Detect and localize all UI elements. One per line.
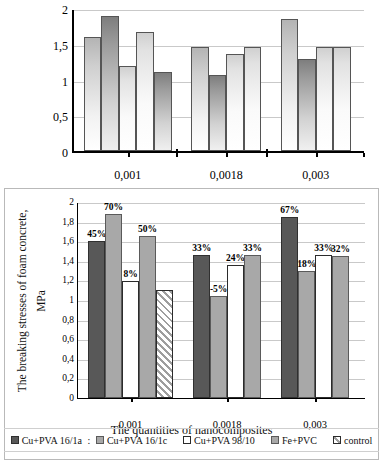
x-axis-tick-mark: [128, 153, 130, 157]
group-separator-tick: [176, 149, 178, 157]
bottom-chart-bar: [88, 241, 105, 398]
y-axis-tick-label: 2: [69, 198, 74, 208]
legend-item-cu-pva-16-1a[interactable]: Cu+PVA 16/1a: [11, 435, 82, 446]
bottom-chart-bar: [139, 236, 156, 398]
legend-label: Cu+PVA 98/10: [194, 435, 255, 446]
group-separator-tick: [266, 149, 268, 157]
x-axis-tick-mark: [315, 399, 317, 402]
top-chart-bar: [209, 75, 227, 151]
bottom-chart-bar: [227, 265, 244, 398]
bar-percentage-label: 45%: [87, 230, 106, 240]
y-axis-tick-label: 1,6: [62, 237, 74, 247]
y-axis-tick-label: 0,6: [62, 335, 74, 345]
top-chart-bar: [84, 37, 102, 151]
legend-separator: :: [82, 435, 96, 446]
bar-percentage-label: 70%: [104, 203, 123, 213]
top-bar-chart: 00,511,520,0010,00180,003: [0, 0, 383, 178]
bottom-chart-bar: [210, 296, 227, 398]
top-chart-bar: [136, 32, 154, 151]
top-chart-bar: [119, 66, 137, 151]
legend-label: Cu+PVA 16/1c: [107, 435, 167, 446]
top-plot-area: 00,511,520,0010,00180,003: [72, 10, 364, 153]
y-axis-title-line1: The breaking stresses of foam concrete,: [11, 203, 33, 399]
bar-percentage-label: 33%: [243, 244, 262, 254]
top-chart-bar: [101, 16, 119, 151]
legend-swatch-icon: [333, 436, 341, 444]
legend-item-control[interactable]: control: [333, 435, 372, 446]
y-axis-tick-label: 1: [69, 296, 74, 306]
bar-percentage-label: 18%: [297, 260, 316, 270]
bottom-chart-bar: [193, 255, 210, 398]
bar-percentage-label: 50%: [138, 225, 157, 235]
top-chart-bar: [154, 72, 172, 151]
x-axis-tick-mark: [226, 153, 228, 157]
x-axis-tick-mark: [227, 399, 229, 402]
y-axis-tick-label: 0,2: [62, 375, 74, 385]
bottom-chart-bar: [332, 256, 349, 398]
bottom-chart-bar: [244, 255, 261, 398]
y-axis-tick-label: 0: [62, 147, 68, 159]
legend-item-cu-pva-16-1c[interactable]: Cu+PVA 16/1c: [96, 435, 167, 446]
bar-percentage-label: -5%: [210, 285, 227, 295]
y-axis-tick-label: 1: [62, 76, 68, 88]
x-axis-category-label: 0,003: [276, 168, 356, 183]
legend-label: Cu+PVA 16/1a: [22, 435, 82, 446]
top-chart-bar: [281, 19, 299, 151]
top-chart-bar: [244, 47, 262, 151]
bar-percentage-label: 33%: [192, 244, 211, 254]
y-axis-tick-label: 0,5: [53, 111, 68, 123]
y-axis-tick-label: 0,4: [62, 355, 74, 365]
top-chart-bar: [316, 47, 334, 151]
y-axis-title-line2: MPa: [31, 203, 51, 399]
bottom-plot-area: 00,20,40,60,811,21,41,61,8245%70%8%50%0,…: [77, 203, 365, 399]
bottom-chart-bar: [315, 255, 332, 398]
x-axis-tick-mark: [316, 153, 318, 157]
bar-percentage-label: 24%: [226, 254, 245, 264]
y-axis-tick-label: 1,4: [62, 257, 74, 267]
x-axis-category-label: 0,0018: [186, 168, 266, 183]
legend-swatch-icon: [183, 436, 191, 444]
bar-percentage-label: 67%: [280, 206, 299, 216]
gridline: [74, 10, 364, 11]
top-chart-bar: [226, 54, 244, 151]
y-axis-tick-label: 1,5: [53, 40, 68, 52]
y-axis-tick-label: 1,8: [62, 218, 74, 228]
bar-percentage-label: 8%: [123, 270, 137, 280]
legend-label: Fe+PVC: [282, 435, 317, 446]
legend-item-fe-pvc[interactable]: Fe+PVC: [271, 435, 317, 446]
y-axis-tick-label: 2: [62, 4, 68, 16]
top-chart-bar: [191, 47, 209, 151]
chart-legend: Cu+PVA 16/1a : Cu+PVA 16/1c Cu+PVA 98/10…: [4, 428, 379, 452]
legend-label: control: [344, 435, 372, 446]
x-axis-end-tick: [363, 153, 365, 157]
top-chart-bar: [333, 47, 351, 151]
legend-swatch-icon: [11, 436, 19, 444]
legend-swatch-icon: [271, 436, 279, 444]
top-chart-bar: [298, 59, 316, 151]
x-axis-category-label: 0,001: [88, 168, 168, 183]
bar-percentage-label: 32%: [331, 245, 350, 255]
bottom-chart-bar: [298, 271, 315, 398]
y-axis-tick-label: 0: [69, 394, 74, 404]
y-axis-tick-label: 0,8: [62, 316, 74, 326]
bottom-bar-chart: The breaking stresses of foam concrete, …: [4, 188, 379, 460]
bottom-chart-bar: [281, 217, 298, 398]
legend-swatch-icon: [96, 436, 104, 444]
figure-page: 00,511,520,0010,00180,003 The breaking s…: [0, 0, 383, 464]
bottom-chart-bar: [105, 214, 122, 398]
y-axis-tick-label: 1,2: [62, 277, 74, 287]
bottom-chart-bar: [156, 290, 173, 398]
x-axis-tick-mark: [131, 399, 133, 402]
bottom-chart-bar: [122, 281, 139, 398]
legend-item-cu-pva-98-10[interactable]: Cu+PVA 98/10: [183, 435, 255, 446]
